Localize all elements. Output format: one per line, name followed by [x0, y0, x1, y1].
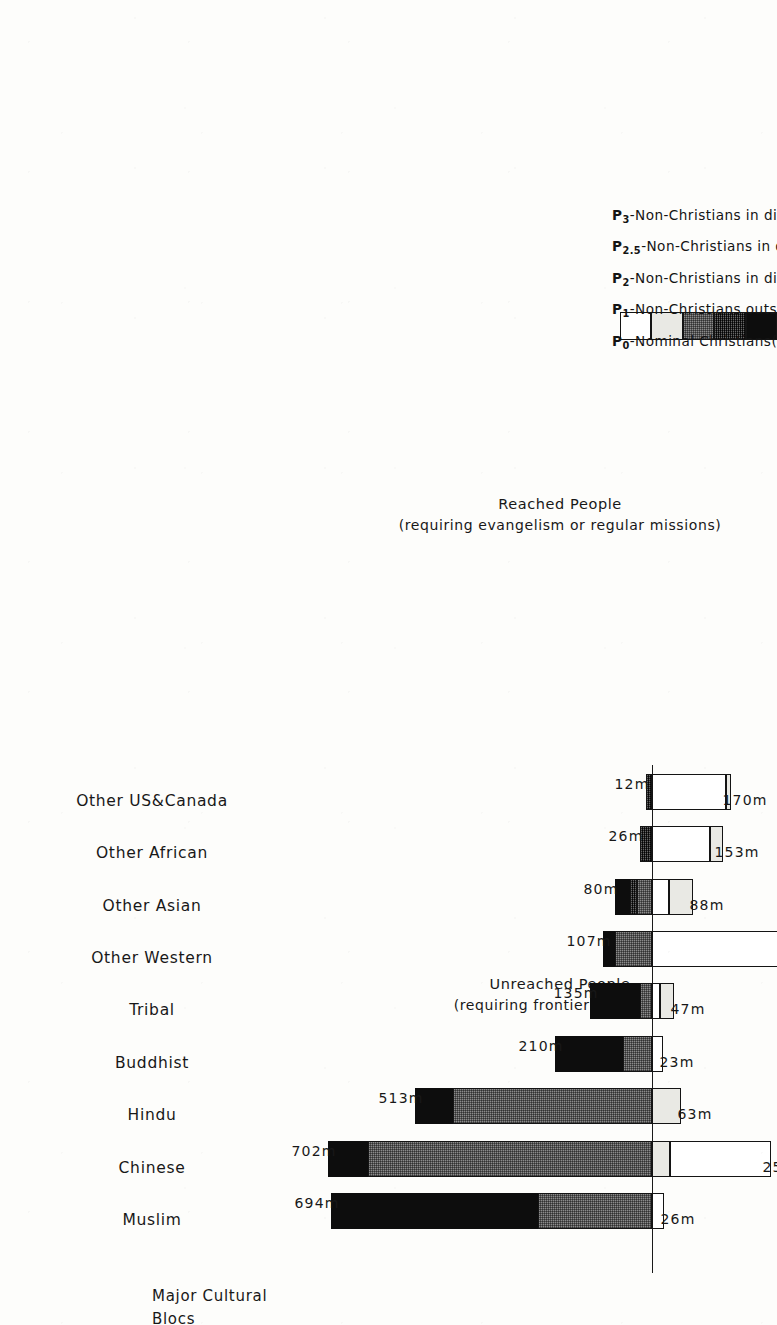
- legend-entry-p1: P1-Non-Christians outside existing churc…: [612, 301, 777, 319]
- legend-key-letter: P: [612, 333, 622, 349]
- legend-entry-p3: P3-Non-Christians in different megaspher…: [612, 207, 777, 225]
- rotated-figure-canvas: Major Cultural Blocs Unreached People (r…: [0, 0, 777, 1325]
- legend-key-letter: P: [612, 207, 622, 223]
- legend-key-subscript: 2.5: [622, 245, 641, 256]
- legend-key-letter: P: [612, 270, 622, 286]
- legend-key-subscript: 3: [622, 214, 629, 225]
- legend-entry-p2-5: P2.5-Non-Christians in different macrosp…: [612, 238, 777, 256]
- legend-entry-text: -Non-Christians in different megasphere: [630, 207, 777, 223]
- legend-key-subscript: 0: [622, 340, 629, 351]
- legend-key-subscript: 2: [622, 277, 629, 288]
- legend-key-letter: P: [612, 238, 622, 254]
- legend-entry-p2: P2-Non-Christians in different minispher…: [612, 270, 777, 288]
- legend-entry-text: -Nominal Christians(within existing chur…: [630, 333, 777, 349]
- legend-entry-text: -Non-Christians in different minisphere,…: [630, 270, 777, 286]
- chart-figure: Major Cultural Blocs Unreached People (r…: [0, 0, 777, 1325]
- legend-key-subscript: 1: [622, 308, 629, 319]
- legend-entry-p0: P0-Nominal Christians(within existing ch…: [612, 333, 777, 351]
- legend: P0-Nominal Christians(within existing ch…: [0, 0, 777, 1325]
- legend-entry-text: -Non-Christians outside existing church(…: [630, 301, 777, 317]
- legend-key-letter: P: [612, 301, 622, 317]
- legend-entry-text: -Non-Christians in different macrosphere: [641, 238, 777, 254]
